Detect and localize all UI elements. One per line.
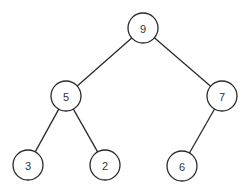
edge-5-3 bbox=[35, 109, 59, 152]
tree-node-7: 7 bbox=[207, 81, 237, 111]
binary-tree-diagram: 957326 bbox=[0, 0, 246, 192]
edge-7-6 bbox=[189, 109, 214, 153]
edge-5-2 bbox=[73, 109, 97, 152]
node-label: 9 bbox=[140, 23, 146, 35]
edge-9-5 bbox=[77, 38, 132, 86]
tree-node-3: 3 bbox=[13, 150, 43, 180]
node-label: 3 bbox=[25, 160, 31, 172]
node-label: 6 bbox=[179, 161, 185, 173]
node-label: 2 bbox=[102, 160, 108, 172]
tree-node-9: 9 bbox=[128, 13, 158, 43]
node-label: 5 bbox=[63, 91, 69, 103]
tree-node-5: 5 bbox=[51, 81, 81, 111]
nodes-layer: 957326 bbox=[13, 13, 237, 181]
tree-node-6: 6 bbox=[167, 151, 197, 181]
tree-node-2: 2 bbox=[90, 150, 120, 180]
edge-9-7 bbox=[154, 38, 210, 86]
node-label: 7 bbox=[219, 91, 225, 103]
